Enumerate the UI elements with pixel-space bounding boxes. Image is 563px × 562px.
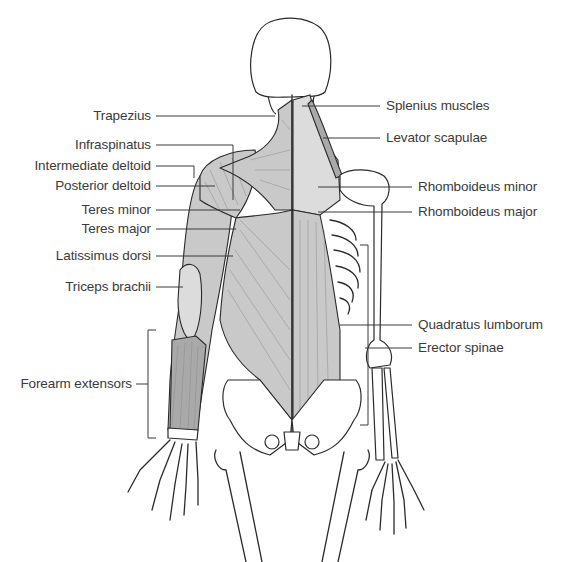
label-levator-scapulae: Levator scapulae	[386, 130, 487, 146]
label-posterior-deltoid: Posterior deltoid	[55, 178, 151, 194]
label-triceps-brachii: Triceps brachii	[65, 279, 151, 295]
label-rhomboideus-minor: Rhomboideus minor	[418, 179, 537, 195]
label-forearm-extensors: Forearm extensors	[20, 376, 132, 392]
label-erector-spinae: Erector spinae	[418, 340, 504, 356]
skull	[251, 18, 331, 114]
label-splenius-muscles: Splenius muscles	[386, 98, 489, 114]
label-teres-minor: Teres minor	[82, 202, 151, 218]
label-intermediate-deltoid: Intermediate deltoid	[34, 158, 151, 174]
femurs	[215, 450, 370, 562]
right-hand-bones	[366, 460, 424, 534]
label-rhomboideus-major: Rhomboideus major	[418, 204, 537, 220]
label-teres-major: Teres major	[82, 221, 151, 237]
label-quadratus-lumborum: Quadratus lumborum	[418, 317, 543, 333]
left-hand-bones	[128, 440, 198, 520]
label-trapezius: Trapezius	[93, 108, 151, 124]
label-infraspinatus: Infraspinatus	[75, 137, 151, 153]
back-muscles-left	[220, 100, 292, 420]
label-latissimus-dorsi: Latissimus dorsi	[56, 248, 151, 264]
